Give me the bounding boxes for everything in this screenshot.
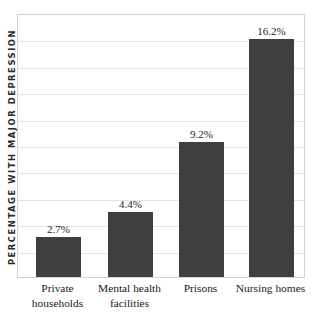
x-axis-tick-labels: PrivatehouseholdsMental healthfacilities… [17,281,305,321]
bar-value-label: 4.4% [96,198,165,210]
bar-slot: 4.4% [108,15,153,277]
bar[interactable] [108,212,153,277]
x-axis-tick-label-line: Nursing homes [236,282,305,294]
bar-slot: 2.7% [36,15,81,277]
bar-value-label: 9.2% [167,128,236,140]
x-axis-tick-label: Nursing homes [228,281,314,296]
bar-slot: 16.2% [249,15,294,277]
x-axis-tick-label-line: Prisons [184,282,218,294]
y-axis-title-container: PERCENTAGE WITH MAJOR DEPRESSION [0,0,17,292]
bar-value-label: 2.7% [24,223,93,235]
bar-chart-figure: PERCENTAGE WITH MAJOR DEPRESSION 2.7%4.4… [0,0,315,321]
bar[interactable] [36,237,81,277]
plot-area: 2.7%4.4%9.2%16.2% [17,14,305,278]
x-axis-tick-label-line: facilities [87,296,173,311]
bar[interactable] [249,39,294,277]
bar-slot: 9.2% [179,15,224,277]
bar[interactable] [179,142,224,277]
x-axis-tick-label-line: Private [41,282,73,294]
bar-series: 2.7%4.4%9.2%16.2% [18,15,304,277]
bar-value-label: 16.2% [237,25,306,37]
x-axis-tick-label-line: Mental health [98,282,161,294]
